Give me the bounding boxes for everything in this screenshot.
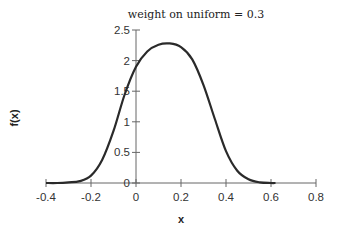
y-axis-label: f(x)	[8, 109, 20, 126]
density-curve	[46, 43, 276, 183]
svg-text:0.6: 0.6	[263, 191, 279, 203]
svg-text:0: 0	[133, 191, 139, 203]
svg-text:0.4: 0.4	[218, 191, 235, 203]
svg-text:1: 1	[124, 116, 130, 128]
svg-text:0.5: 0.5	[114, 146, 130, 158]
chart: weight on uniform = 0.3 -0.4-0.200.20.40…	[0, 0, 338, 233]
svg-text:2: 2	[124, 55, 130, 67]
tick-labels: -0.4-0.200.20.40.60.800.511.522.5	[36, 24, 324, 203]
svg-text:-0.4: -0.4	[36, 191, 56, 203]
svg-text:0: 0	[124, 177, 130, 189]
svg-text:2.5: 2.5	[114, 24, 130, 36]
svg-text:-0.2: -0.2	[81, 191, 101, 203]
svg-text:0.8: 0.8	[308, 191, 324, 203]
chart-title: weight on uniform = 0.3	[128, 8, 264, 21]
x-axis-label: x	[178, 213, 185, 225]
svg-text:0.2: 0.2	[173, 191, 189, 203]
axes	[46, 30, 316, 187]
